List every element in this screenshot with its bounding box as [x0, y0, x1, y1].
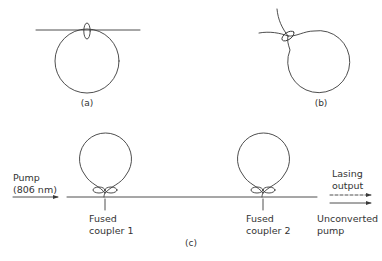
coupler-1-label-line1: Fused: [89, 213, 134, 225]
coupler-1-label-line2: coupler 1: [89, 225, 134, 237]
coupler-2-label: Fused coupler 2: [246, 213, 291, 237]
lasing-output-label-line2: output: [332, 180, 363, 192]
pump-input-label-line1: Pump: [13, 172, 57, 184]
panel-c-caption: (c): [185, 238, 197, 248]
lasing-output-label-line1: Lasing: [332, 168, 363, 180]
coupler-2-label-line1: Fused: [246, 213, 291, 225]
panel-a-coupler-twist: [84, 23, 90, 39]
panel-c-drawing: [13, 133, 371, 210]
unconverted-pump-label: Unconverted pump: [317, 213, 378, 237]
panel-b-fiber-loop: [288, 31, 350, 93]
coupler-1-label: Fused coupler 1: [89, 213, 134, 237]
unconverted-pump-label-line1: Unconverted: [317, 213, 378, 225]
panel-b-fiber-lead-vertical: [277, 9, 288, 36]
panel-b-caption: (b): [315, 98, 328, 108]
pump-input-label-line2: (806 nm): [13, 184, 57, 196]
panel-a-drawing: [36, 23, 140, 93]
panel-b-drawing: [259, 9, 350, 93]
unconverted-pump-label-line2: pump: [317, 225, 378, 237]
pump-input-label: Pump (806 nm): [13, 172, 57, 196]
lasing-output-label: Lasing output: [332, 168, 363, 192]
panel-a-caption: (a): [81, 98, 94, 108]
fiber-loop-2: [238, 133, 290, 210]
coupler-2-label-line2: coupler 2: [246, 225, 291, 237]
fiber-loop-1: [80, 133, 132, 210]
